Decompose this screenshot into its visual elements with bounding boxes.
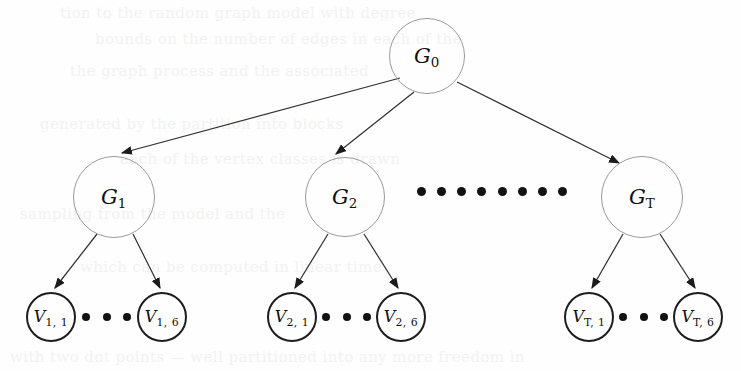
ellipsis-dot <box>457 187 466 196</box>
node-label-subscript: 0 <box>431 55 440 70</box>
ellipsis-dot <box>103 313 111 321</box>
node-label-subscript: 1 <box>118 196 127 211</box>
node-label-g1: G1 <box>101 187 127 208</box>
node-vt-1: VT, 1 <box>564 292 614 342</box>
node-label-v2-6: V2, 6 <box>384 309 418 325</box>
ellipsis-dot <box>82 313 90 321</box>
edge-arrow-gt-to-vt_1 <box>592 234 623 288</box>
ellipsis-dot <box>538 187 547 196</box>
node-g2: G2 <box>305 157 385 237</box>
node-label-base: V <box>384 307 396 326</box>
ellipsis-dot <box>558 187 567 196</box>
ellipsis-dot <box>640 313 648 321</box>
ellipsis-dots-ellipsis-leaves-1 <box>82 313 131 321</box>
ellipsis-dot <box>498 187 507 196</box>
node-label-subscript: 2 <box>349 196 358 211</box>
ellipsis-dot <box>343 313 351 321</box>
node-label-base: G <box>101 185 118 209</box>
node-label-base: V <box>572 307 584 326</box>
node-label-vt-1: VT, 1 <box>572 309 605 325</box>
node-label-subscript: 1, 6 <box>156 316 179 329</box>
ellipsis-dot <box>123 313 131 321</box>
ellipsis-dot <box>619 313 627 321</box>
ellipsis-dots-ellipsis-groups <box>417 186 567 196</box>
node-label-base: G <box>414 44 431 68</box>
edge-arrow-g0-to-g2 <box>336 92 414 154</box>
node-label-subscript: T, 1 <box>584 316 606 329</box>
node-label-v1-6: V1, 6 <box>145 309 179 325</box>
figure-canvas: tion to the random graph model with degr… <box>0 0 741 371</box>
node-v2-6: V2, 6 <box>376 292 426 342</box>
ellipsis-dot <box>477 187 486 196</box>
edge-arrow-gt-to-vt_6 <box>660 234 695 288</box>
node-v2-1: V2, 1 <box>267 292 317 342</box>
ellipsis-dot <box>518 187 527 196</box>
ellipsis-dots-ellipsis-leaves-T <box>619 313 668 321</box>
node-vt-6: VT, 6 <box>673 292 723 342</box>
node-label-subscript: T, 6 <box>693 316 715 329</box>
node-label-v1-1: V1, 1 <box>34 309 68 325</box>
ellipsis-dot <box>417 187 426 196</box>
edge-arrow-g1-to-v1_1 <box>55 234 97 288</box>
edge-arrow-g1-to-v1_6 <box>133 234 160 288</box>
node-label-v2-1: V2, 1 <box>275 309 309 325</box>
node-label-subscript: 2, 6 <box>395 316 418 329</box>
edge-arrow-g0-to-g1 <box>122 78 400 153</box>
node-label-subscript: 1, 1 <box>45 316 68 329</box>
node-label-base: V <box>681 307 693 326</box>
node-label-base: V <box>275 307 287 326</box>
edge-arrow-g2-to-v2_1 <box>295 234 328 288</box>
node-g0-root: G0 <box>389 18 465 94</box>
node-v1-6: V1, 6 <box>137 292 187 342</box>
edge-arrow-g0-to-gt <box>457 82 619 163</box>
node-label-base: V <box>34 307 46 326</box>
node-v1-1: V1, 1 <box>26 292 76 342</box>
ellipsis-dot <box>363 313 371 321</box>
node-label-subscript: T <box>646 196 655 211</box>
node-gt: GT <box>601 156 683 238</box>
node-label-base: G <box>629 185 646 209</box>
node-label-subscript: 2, 1 <box>286 316 309 329</box>
node-label-base: G <box>332 185 349 209</box>
node-label-base: V <box>145 307 157 326</box>
node-label-g0: G0 <box>414 46 440 67</box>
ellipsis-dot <box>437 187 446 196</box>
node-g1: G1 <box>73 156 155 238</box>
ellipsis-dots-ellipsis-leaves-2 <box>322 313 371 321</box>
node-label-gt: GT <box>629 187 655 208</box>
node-label-vt-6: VT, 6 <box>681 309 714 325</box>
edge-arrow-g2-to-v2_6 <box>364 234 398 288</box>
ellipsis-dot <box>322 313 330 321</box>
node-label-g2: G2 <box>332 187 358 208</box>
ellipsis-dot <box>660 313 668 321</box>
